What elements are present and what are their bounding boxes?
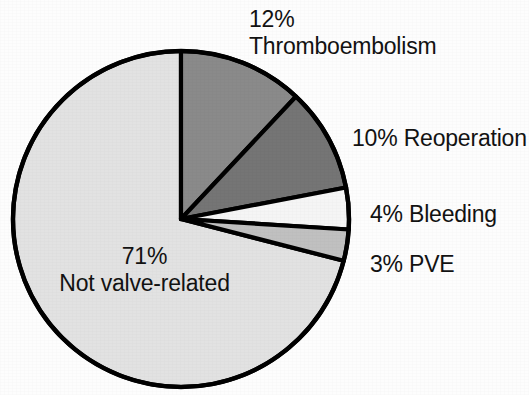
slice-name-not-valve-related: Not valve-related [42, 270, 247, 297]
slice-label-bleeding: 4% Bleeding [370, 201, 497, 228]
slice-label-reoperation: 10% Reoperation [352, 125, 527, 152]
slice-name-bleeding: Bleeding [409, 201, 497, 227]
slice-label-thromboembolism: 12% Thromboembolism [249, 6, 436, 60]
slice-percent-bleeding: 4% [370, 201, 403, 227]
slice-name-thromboembolism: Thromboembolism [249, 33, 436, 60]
slice-label-pve: 3% PVE [370, 251, 454, 278]
slice-percent-reoperation: 10% [352, 125, 397, 151]
pie-chart-figure: 12% Thromboembolism 10% Reoperation 4% B… [0, 0, 529, 395]
slice-name-reoperation: Reoperation [404, 125, 527, 151]
slice-label-not-valve-related: 71% Not valve-related [42, 243, 247, 297]
slice-name-pve: PVE [409, 251, 454, 277]
slice-percent-thromboembolism: 12% [249, 6, 436, 33]
slice-percent-not-valve-related: 71% [42, 243, 247, 270]
slice-percent-pve: 3% [370, 251, 403, 277]
